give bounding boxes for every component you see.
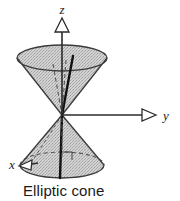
elliptic-cone-figure: z y x Elliptic cone xyxy=(0,0,180,201)
z-axis-arrowhead-icon xyxy=(55,18,69,32)
y-axis: y xyxy=(62,108,169,123)
figure-caption: Elliptic cone xyxy=(23,182,104,199)
cone-diagram-canvas: z y x Elliptic cone xyxy=(0,0,180,201)
x-axis-label: x xyxy=(8,157,15,172)
y-axis-label: y xyxy=(161,108,169,123)
lower-cone-nappe xyxy=(20,115,104,178)
z-axis-label: z xyxy=(58,2,64,17)
y-axis-arrowhead-icon xyxy=(142,109,156,121)
